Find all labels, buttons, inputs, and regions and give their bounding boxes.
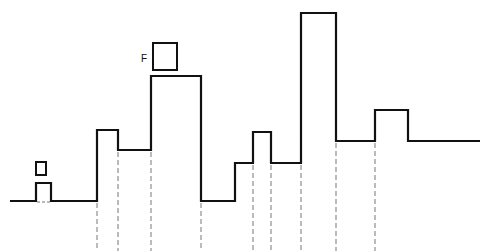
f-label: F (141, 53, 147, 64)
step-waveform-line (10, 13, 480, 201)
f-box-marker (153, 43, 177, 70)
step-waveform-diagram: F (0, 0, 486, 251)
small-square-marker (36, 162, 46, 175)
dashed-guide-lines (37, 143, 375, 251)
